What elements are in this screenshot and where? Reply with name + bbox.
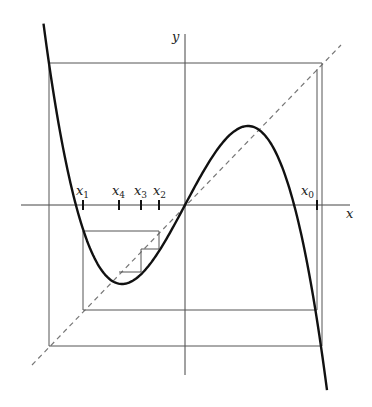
label-x0: x0 — [301, 184, 314, 200]
label-x1-sub: 1 — [83, 190, 89, 200]
label-x4: x4 — [112, 184, 125, 200]
label-x2: x2 — [153, 184, 166, 200]
diagram-canvas — [0, 0, 372, 407]
label-x3: x3 — [134, 184, 147, 200]
label-x4-sub: 4 — [119, 190, 125, 200]
y-axis-label: y — [172, 30, 179, 43]
x-axis-label: x — [346, 207, 353, 220]
label-x3-sub: 3 — [141, 190, 147, 200]
cobweb-diagram: y x x1 x4 x3 x2 x0 — [0, 0, 372, 407]
label-x2-sub: 2 — [160, 190, 166, 200]
label-x0-sub: 0 — [308, 190, 314, 200]
label-x1: x1 — [76, 184, 89, 200]
